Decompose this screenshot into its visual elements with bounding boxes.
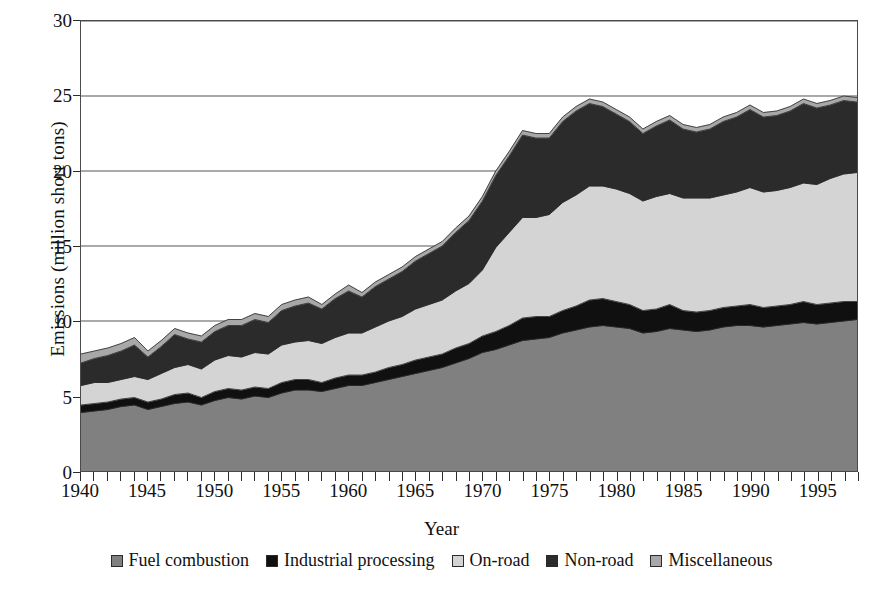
- x-minor-tick: [630, 472, 631, 481]
- legend-item[interactable]: On-road: [452, 550, 530, 571]
- x-tick-label: 1945: [128, 481, 166, 500]
- y-tick-label: 15: [26, 237, 72, 256]
- y-tick-label: 25: [26, 86, 72, 105]
- legend-swatch-icon: [111, 555, 123, 567]
- legend-item[interactable]: Fuel combustion: [111, 550, 250, 571]
- x-minor-tick: [429, 472, 430, 481]
- x-minor-tick: [509, 472, 510, 481]
- y-tick-mark: [73, 246, 80, 247]
- legend-item[interactable]: Miscellaneous: [650, 550, 772, 571]
- x-minor-tick: [348, 472, 349, 481]
- x-minor-tick: [496, 472, 497, 481]
- legend-label: Fuel combustion: [129, 550, 250, 571]
- y-tick-mark-layer: [73, 20, 80, 472]
- x-minor-tick: [617, 472, 618, 481]
- y-tick-mark: [73, 20, 80, 21]
- x-minor-tick: [389, 472, 390, 481]
- x-minor-tick: [335, 472, 336, 481]
- x-minor-tick: [523, 472, 524, 481]
- x-minor-tick: [362, 472, 363, 481]
- x-minor-tick: [80, 472, 81, 481]
- x-minor-tick: [751, 472, 752, 481]
- x-tick-label: 1960: [329, 481, 367, 500]
- x-minor-tick: [402, 472, 403, 481]
- x-tick-label: 1950: [195, 481, 233, 500]
- x-minor-tick: [442, 472, 443, 481]
- x-minor-tick: [576, 472, 577, 481]
- legend-swatch-icon: [266, 555, 278, 567]
- x-minor-tick: [482, 472, 483, 481]
- area-chart-svg: [81, 21, 857, 471]
- x-minor-tick: [791, 472, 792, 481]
- x-minor-tick: [590, 472, 591, 481]
- x-minor-tick: [134, 472, 135, 481]
- legend-swatch-icon: [546, 555, 558, 567]
- y-tick-label: 5: [26, 387, 72, 406]
- x-tick-label: 1980: [598, 481, 636, 500]
- stacked-area-chart: Emissions (million short tons) 051015202…: [0, 0, 883, 591]
- x-minor-tick: [657, 472, 658, 481]
- legend-label: Miscellaneous: [668, 550, 772, 571]
- x-minor-tick: [804, 472, 805, 481]
- x-minor-tick: [710, 472, 711, 481]
- x-minor-tick: [214, 472, 215, 481]
- legend-label: On-road: [470, 550, 530, 571]
- x-tick-label: 1975: [530, 481, 568, 500]
- x-tick-label: 1955: [262, 481, 300, 500]
- x-minor-tick: [670, 472, 671, 481]
- x-minor-tick: [603, 472, 604, 481]
- x-minor-tick: [549, 472, 550, 481]
- x-axis-title: Year: [0, 518, 883, 540]
- x-minor-tick: [643, 472, 644, 481]
- x-minor-tick: [778, 472, 779, 481]
- x-tick-label: 1995: [799, 481, 837, 500]
- x-minor-tick: [295, 472, 296, 481]
- x-minor-tick: [469, 472, 470, 481]
- x-tick-label: 1965: [396, 481, 434, 500]
- x-minor-tick: [415, 472, 416, 481]
- plot-area: [80, 20, 858, 472]
- chart-legend: Fuel combustionIndustrial processingOn-r…: [0, 550, 883, 571]
- x-axis-tick-labels: 1940194519501955196019651970197519801985…: [0, 481, 883, 507]
- x-minor-tick: [456, 472, 457, 481]
- y-tick-mark: [73, 171, 80, 172]
- legend-swatch-icon: [452, 555, 464, 567]
- x-minor-tick: [254, 472, 255, 481]
- y-tick-label: 20: [26, 161, 72, 180]
- legend-label: Industrial processing: [284, 550, 434, 571]
- legend-label: Non-road: [564, 550, 633, 571]
- x-minor-tick: [120, 472, 121, 481]
- x-minor-tick: [107, 472, 108, 481]
- y-tick-label: 30: [26, 11, 72, 30]
- x-minor-tick: [724, 472, 725, 481]
- x-tick-label: 1940: [61, 481, 99, 500]
- legend-item[interactable]: Non-road: [546, 550, 633, 571]
- x-minor-tick: [697, 472, 698, 481]
- x-minor-tick-layer: [80, 472, 858, 481]
- x-minor-tick: [308, 472, 309, 481]
- figure-root: Emissions (million short tons) 051015202…: [0, 0, 883, 591]
- x-minor-tick: [737, 472, 738, 481]
- x-minor-tick: [228, 472, 229, 481]
- x-minor-tick: [268, 472, 269, 481]
- x-minor-tick: [174, 472, 175, 481]
- y-tick-mark: [73, 95, 80, 96]
- legend-item[interactable]: Industrial processing: [266, 550, 434, 571]
- y-tick-label: 0: [26, 463, 72, 482]
- x-minor-tick: [321, 472, 322, 481]
- x-minor-tick: [536, 472, 537, 481]
- x-minor-tick: [845, 472, 846, 481]
- y-tick-mark: [73, 321, 80, 322]
- x-tick-label: 1990: [732, 481, 770, 500]
- x-minor-tick: [831, 472, 832, 481]
- y-tick-label: 10: [26, 312, 72, 331]
- x-minor-tick: [281, 472, 282, 481]
- x-minor-tick: [858, 472, 859, 481]
- x-minor-tick: [818, 472, 819, 481]
- y-tick-mark: [73, 397, 80, 398]
- x-minor-tick: [375, 472, 376, 481]
- legend-swatch-icon: [650, 555, 662, 567]
- x-minor-tick: [93, 472, 94, 481]
- x-minor-tick: [201, 472, 202, 481]
- x-minor-tick: [160, 472, 161, 481]
